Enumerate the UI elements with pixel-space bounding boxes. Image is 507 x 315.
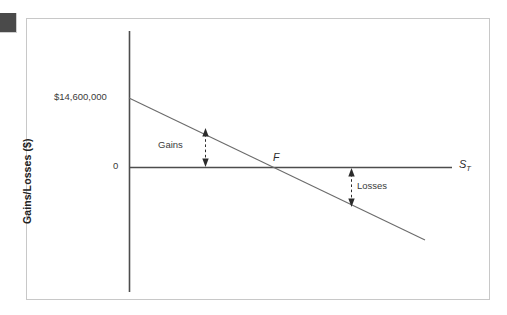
x-axis-label: ST (459, 159, 471, 173)
gains-annotation-label: Gains (158, 140, 183, 150)
payoff-diagram-plot (0, 0, 507, 315)
futures-price-point-label: F (273, 152, 279, 163)
losses-arrow (348, 168, 354, 207)
y-axis-tick-label-top: $14,600,000 (54, 92, 107, 102)
payoff-line (129, 98, 425, 240)
losses-annotation-label: Losses (357, 181, 387, 191)
x-axis-label-subscript: T (466, 164, 471, 173)
figure-canvas: Gains/Losses ($) $14,600,000 0 ST F Gain… (0, 0, 507, 315)
y-axis-tick-label-zero: 0 (113, 161, 118, 171)
y-axis-title: Gains/Losses ($) (22, 121, 33, 241)
